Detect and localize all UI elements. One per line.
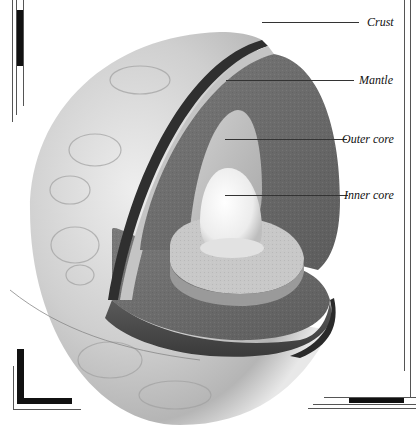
inner-core-label: Inner core (344, 189, 394, 201)
mantle-label: Mantle (359, 74, 393, 86)
crust-label: Crust (367, 16, 394, 28)
crust-leader-line (262, 22, 359, 23)
inner-core-leader-line (225, 195, 348, 196)
outer-core-leader-line (225, 139, 347, 140)
outer-core-label: Outer core (342, 133, 394, 145)
mantle-leader-line (226, 80, 354, 81)
inner-core-slab (200, 238, 264, 258)
earth-cutaway-illustration (0, 0, 416, 430)
